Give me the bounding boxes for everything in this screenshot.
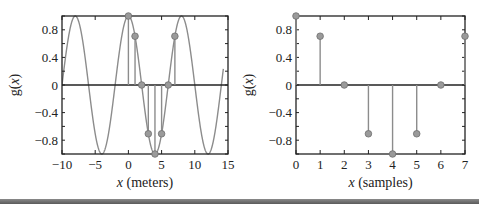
x-tick-label: 15 xyxy=(222,157,235,172)
y-tick-label: 0.8 xyxy=(276,22,292,37)
x-tick-label: 2 xyxy=(341,157,348,172)
y-tick-label: −0.4 xyxy=(268,105,292,120)
y-tick-label: −0.8 xyxy=(268,133,292,148)
y-tick-label: 0.4 xyxy=(276,50,293,65)
y-axis-label: g(x) xyxy=(7,73,23,96)
stem-marker xyxy=(152,151,159,158)
y-tick-label: −0.4 xyxy=(34,105,58,120)
x-tick-label: 5 xyxy=(413,157,420,172)
stem-marker xyxy=(158,130,165,137)
stem-marker xyxy=(125,13,132,20)
bottom-divider-bar xyxy=(0,199,479,204)
x-tick-label: 0 xyxy=(125,157,132,172)
stem-marker xyxy=(138,82,145,89)
stem-marker xyxy=(317,33,324,40)
stem-marker xyxy=(438,82,445,89)
y-tick-label: 0.4 xyxy=(42,50,59,65)
stem-marker xyxy=(165,82,172,89)
x-tick-label: −10 xyxy=(52,157,72,172)
x-tick-label: 1 xyxy=(317,157,324,172)
x-tick-label: 4 xyxy=(389,157,396,172)
stem-marker xyxy=(132,33,139,40)
x-tick-label: 0 xyxy=(293,157,300,172)
x-tick-label: −5 xyxy=(88,157,102,172)
stem-marker xyxy=(341,82,348,89)
x-axis-label: x (meters) xyxy=(116,175,174,191)
right-plot-samples: 012345670.80.40−0.4−0.8x (samples)g(x) xyxy=(241,13,469,191)
y-tick-label: 0 xyxy=(52,78,59,93)
stem-marker xyxy=(145,130,152,137)
x-axis-label: x (samples) xyxy=(347,175,412,191)
stem-marker xyxy=(293,13,300,20)
x-tick-label: 10 xyxy=(188,157,201,172)
stem-marker xyxy=(365,130,372,137)
left-plot-meters: −10−50510150.80.40−0.4−0.8x (meters)g(x) xyxy=(7,13,235,191)
stem-marker xyxy=(172,33,179,40)
stem-marker xyxy=(413,130,420,137)
chart-figure: −10−50510150.80.40−0.4−0.8x (meters)g(x)… xyxy=(0,0,479,204)
y-tick-label: 0 xyxy=(286,78,293,93)
stem-marker xyxy=(462,33,469,40)
x-tick-label: 5 xyxy=(158,157,165,172)
x-tick-label: 3 xyxy=(365,157,372,172)
y-axis-label: g(x) xyxy=(241,73,257,96)
stem-marker xyxy=(389,151,396,158)
x-tick-label: 6 xyxy=(438,157,445,172)
y-tick-label: 0.8 xyxy=(42,22,58,37)
y-tick-label: −0.8 xyxy=(34,133,58,148)
x-tick-label: 7 xyxy=(462,157,469,172)
